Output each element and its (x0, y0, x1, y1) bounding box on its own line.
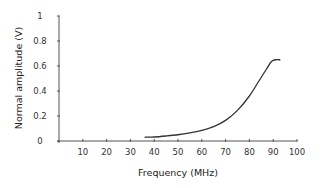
x-axis-label: Frequency (MHz) (138, 167, 218, 178)
x-tick-label: 30 (125, 147, 136, 157)
x-tick-label: 50 (173, 147, 184, 157)
amplitude-curve (145, 60, 281, 138)
y-axis: 00.20.40.60.81 (33, 11, 60, 146)
x-tick-label: 100 (289, 147, 305, 157)
frequency-response-chart: 00.20.40.60.81 102030405060708090100 Fre… (0, 0, 322, 188)
x-tick-label: 10 (77, 147, 88, 157)
x-tick-label: 70 (220, 147, 231, 157)
y-tick-label: 1 (37, 11, 42, 21)
x-tick-label: 80 (244, 147, 255, 157)
y-tick-label: 0.6 (33, 61, 47, 71)
y-tick-label: 0.4 (33, 86, 47, 96)
x-tick-label: 60 (196, 147, 207, 157)
x-axis: 102030405060708090100 (57, 139, 305, 157)
y-tick-label: 0 (37, 136, 42, 146)
y-tick-label: 0.8 (33, 36, 47, 46)
x-tick-label: 90 (268, 147, 279, 157)
x-tick-label: 20 (101, 147, 112, 157)
x-tick-label: 40 (149, 147, 160, 157)
y-axis-label: Normal amplitude (V) (13, 27, 24, 129)
y-tick-label: 0.2 (33, 111, 47, 121)
